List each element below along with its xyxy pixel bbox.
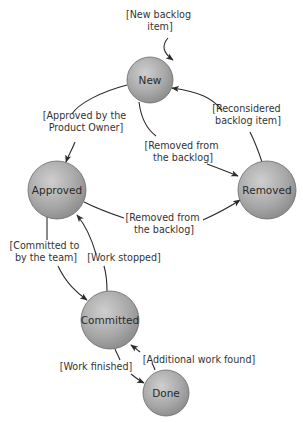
label-new-approved: [Approved by the Product Owner] <box>43 110 129 133</box>
node-removed: Removed <box>238 161 296 219</box>
label-approved-committed: [Committed to by the team] <box>10 240 83 263</box>
node-committed: Committed <box>81 291 140 349</box>
edge-approved-removed-2 <box>203 200 240 220</box>
label-approved-removed: [Removed from the backlog] <box>125 212 202 235</box>
state-diagram: [New backlog item] [Approved by the Prod… <box>0 0 303 423</box>
node-approved-label: Approved <box>32 184 82 196</box>
node-committed-label: Committed <box>81 314 140 326</box>
node-done-label: Done <box>152 387 180 399</box>
edge-committed-approved <box>104 266 107 291</box>
label-start-new: [New backlog item] <box>126 9 194 32</box>
edge-done-committed-2 <box>131 345 140 352</box>
label-new-removed: [Removed from the backlog] <box>144 140 221 163</box>
label-committed-done: [Work finished] <box>60 361 133 372</box>
node-removed-label: Removed <box>242 184 291 196</box>
node-new-label: New <box>139 74 162 86</box>
label-committed-approved: [Work stopped] <box>87 252 161 263</box>
label-removed-new: [Reconsidered backlog item] <box>212 103 284 126</box>
edge-committed-done <box>115 349 120 360</box>
edge-approved-removed <box>84 202 124 218</box>
edge-start-new <box>164 38 173 60</box>
node-done: Done <box>143 370 189 416</box>
node-new: New <box>127 57 173 103</box>
edge-new-approved-2 <box>66 142 75 162</box>
label-done-committed: [Additional work found] <box>143 354 255 365</box>
edge-approved-committed-2 <box>58 266 87 300</box>
node-approved: Approved <box>28 161 86 219</box>
edge-new-removed-2 <box>207 164 238 176</box>
edge-removed-new <box>250 132 262 162</box>
edge-new-removed <box>139 102 156 136</box>
edge-committed-done-2 <box>131 374 144 383</box>
